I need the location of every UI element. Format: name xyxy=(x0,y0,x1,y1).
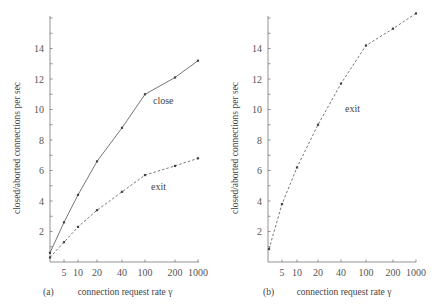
data-point-exit xyxy=(63,241,65,243)
chart-panel-b: 246810121451020401002001000connection re… xyxy=(230,12,426,298)
y-tick-label: 2 xyxy=(39,226,44,237)
y-axis-label: closed/aborted connections per sec xyxy=(12,82,22,214)
y-axis-label: closed/aborted connections per sec xyxy=(230,82,240,214)
data-point-exit xyxy=(174,165,176,167)
series-line-close xyxy=(50,61,198,253)
chart-panel-a: 246810121451020401002001000connection re… xyxy=(12,16,208,298)
y-tick-label: 8 xyxy=(39,135,44,146)
x-tick-label: 10 xyxy=(73,267,83,278)
data-point-exit xyxy=(317,124,319,126)
y-tick-label: 4 xyxy=(257,196,262,207)
y-tick-label: 4 xyxy=(39,196,44,207)
data-point-exit xyxy=(392,28,394,30)
x-axis-label: connection request rate γ xyxy=(297,287,392,297)
annotation-close: close xyxy=(153,95,174,106)
y-tick-label: 10 xyxy=(252,104,262,115)
x-axis-label: connection request rate γ xyxy=(78,287,173,297)
y-tick-label: 14 xyxy=(34,43,44,54)
data-point-close xyxy=(49,252,51,254)
x-tick-label: 1000 xyxy=(406,267,426,278)
data-point-close xyxy=(63,221,65,223)
data-point-close xyxy=(96,160,98,162)
x-tick-label: 20 xyxy=(92,267,102,278)
data-point-close xyxy=(174,76,176,78)
data-point-exit xyxy=(415,12,417,14)
series-line-exit xyxy=(50,158,198,257)
y-tick-label: 12 xyxy=(252,74,262,85)
x-tick-label: 200 xyxy=(168,267,183,278)
data-point-exit xyxy=(296,166,298,168)
data-point-close xyxy=(144,93,146,95)
data-point-exit xyxy=(77,226,79,228)
y-tick-label: 6 xyxy=(257,165,262,176)
chart-figure: 246810121451020401002001000connection re… xyxy=(0,0,435,304)
x-tick-label: 5 xyxy=(62,267,67,278)
annotation-exit: exit xyxy=(345,103,360,114)
x-tick-label: 1000 xyxy=(188,267,208,278)
panel-label: (a) xyxy=(43,287,54,298)
x-tick-label: 100 xyxy=(138,267,153,278)
x-tick-label: 5 xyxy=(280,267,285,278)
x-tick-label: 40 xyxy=(117,267,127,278)
y-tick-label: 10 xyxy=(34,104,44,115)
panel-label: (b) xyxy=(263,287,274,298)
data-point-exit xyxy=(268,248,270,250)
y-tick-label: 12 xyxy=(34,74,44,85)
x-tick-label: 10 xyxy=(292,267,302,278)
data-point-close xyxy=(121,127,123,129)
data-point-exit xyxy=(365,44,367,46)
data-point-exit xyxy=(96,209,98,211)
data-point-exit xyxy=(281,203,283,205)
x-tick-label: 100 xyxy=(359,267,374,278)
y-tick-label: 8 xyxy=(257,135,262,146)
x-tick-label: 200 xyxy=(386,267,401,278)
annotation-exit: exit xyxy=(151,181,166,192)
y-tick-label: 6 xyxy=(39,165,44,176)
data-point-exit xyxy=(340,82,342,84)
data-point-close xyxy=(197,60,199,62)
data-point-exit xyxy=(121,191,123,193)
x-tick-label: 40 xyxy=(336,267,346,278)
x-tick-label: 20 xyxy=(313,267,323,278)
data-point-exit xyxy=(144,174,146,176)
y-tick-label: 14 xyxy=(252,43,262,54)
data-point-exit xyxy=(197,157,199,159)
series-line-exit xyxy=(269,13,416,249)
data-point-exit xyxy=(49,256,51,258)
y-tick-label: 2 xyxy=(257,226,262,237)
data-point-close xyxy=(77,194,79,196)
